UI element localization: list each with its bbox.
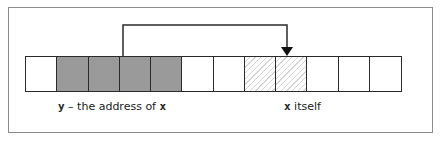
pointer-var: y: [58, 100, 65, 113]
pointer-arrow-icon: [0, 0, 447, 142]
target-label: x itself: [284, 100, 321, 113]
target-var-ref: x: [159, 100, 166, 113]
target-text: itself: [291, 100, 321, 113]
target-var: x: [284, 100, 291, 113]
pointer-label: y – the address of x: [58, 100, 166, 113]
pointer-text: – the address of: [65, 100, 160, 113]
